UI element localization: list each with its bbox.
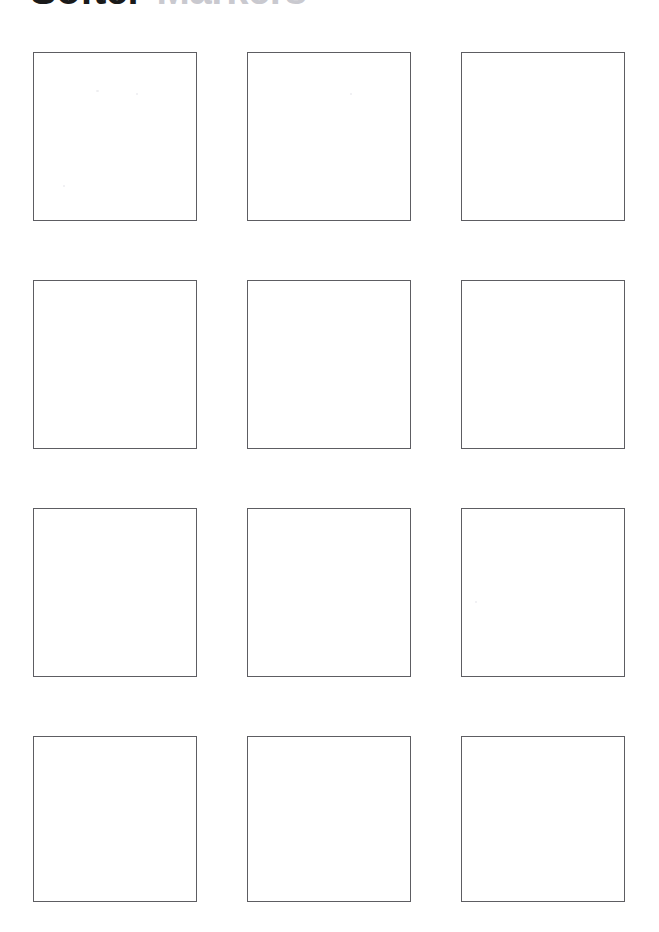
marker-cell-9[interactable] [461, 508, 625, 677]
marker-cell-11[interactable] [247, 736, 411, 902]
scan-speckle [475, 601, 477, 603]
scan-speckle [63, 185, 65, 187]
scan-speckle [96, 90, 99, 92]
worksheet-page: SofterMarkers [0, 0, 659, 932]
marker-cell-1[interactable] [33, 52, 197, 221]
marker-cell-6[interactable] [461, 280, 625, 449]
marker-cell-10[interactable] [33, 736, 197, 902]
marker-grid [33, 52, 625, 899]
marker-cell-7[interactable] [33, 508, 197, 677]
marker-cell-4[interactable] [33, 280, 197, 449]
marker-cell-12[interactable] [461, 736, 625, 902]
marker-cell-5[interactable] [247, 280, 411, 449]
page-title-secondary: Markers [157, 0, 307, 12]
scan-speckle [350, 93, 352, 95]
page-title-primary: Softer [30, 0, 143, 12]
marker-cell-8[interactable] [247, 508, 411, 677]
marker-cell-3[interactable] [461, 52, 625, 221]
page-title-text: SofterMarkers [30, 0, 307, 10]
page-title: SofterMarkers [0, 0, 659, 14]
marker-cell-2[interactable] [247, 52, 411, 221]
scan-speckle [136, 93, 138, 95]
